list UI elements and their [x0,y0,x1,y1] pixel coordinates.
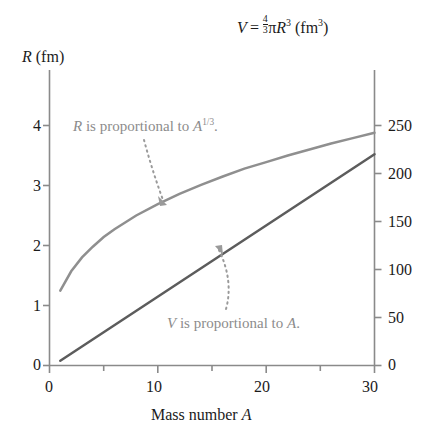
annot-r-arrow [144,140,167,206]
r-curve [60,133,374,291]
right-axis-ticks [375,126,382,366]
annotation-v-period: . [296,315,300,331]
annotation-r-exponent: 1/3 [202,117,214,127]
annotation-v-proportional: V is proportional to A. [167,315,300,332]
annotation-r-symbol-a: A [193,118,202,134]
annotation-r-symbol: R [73,118,82,134]
chart-figure: R (fm) V = 43πR3 (fm3) Mass number A 4 3… [0,0,445,446]
annotation-r-proportional: R is proportional to A1/3. [73,117,218,135]
x-axis-ticks [50,366,375,374]
annotation-v-text: is proportional to [176,315,287,331]
annotation-r-period: . [214,118,218,134]
annotation-v-symbol: V [167,315,176,331]
annotation-v-symbol-a: A [287,315,296,331]
left-axis-ticks [43,126,50,366]
plot-canvas [0,0,445,446]
annotation-r-text: is proportional to [82,118,193,134]
annot-v-arrow [215,245,229,309]
